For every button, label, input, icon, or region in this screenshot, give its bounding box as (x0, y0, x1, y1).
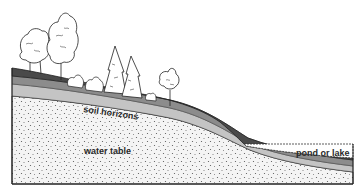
conifer-tree-icon (122, 56, 142, 98)
water-table-label: water table (84, 147, 131, 156)
deciduous-tree-icon (47, 13, 78, 80)
shrub-icon (85, 77, 103, 92)
landscape-cross-section-diagram: soil horizons water table pond or lake (0, 0, 364, 190)
pond-or-lake-label: pond or lake (296, 149, 350, 158)
diagram-svg (0, 0, 364, 190)
conifer-tree-icon (104, 46, 126, 94)
deciduous-tree-icon (20, 29, 50, 74)
shrub-icon (145, 93, 156, 101)
shrub-icon (67, 75, 83, 88)
